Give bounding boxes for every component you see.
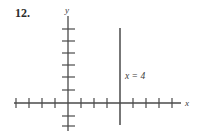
equation-label: x = 4 (124, 71, 145, 81)
y-axis-label: y (64, 5, 69, 15)
x-axis-label: x (184, 98, 189, 108)
coordinate-plane-graph: x y x = 4 (0, 0, 199, 138)
figure-canvas: 12. (0, 0, 199, 138)
